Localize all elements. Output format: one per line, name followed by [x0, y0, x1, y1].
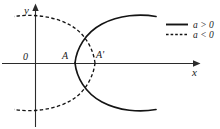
y-axis: [32, 4, 38, 128]
parabola-diagram: y x 0 A A' a > 0 a < 0: [0, 0, 220, 129]
curve-a-positive-upper-branch: [75, 15, 156, 63]
point-label-a: A: [61, 50, 69, 61]
figure-container: y x 0 A A' a > 0 a < 0: [0, 0, 220, 129]
point-label-a-prime: A': [95, 49, 105, 60]
x-axis: [2, 60, 201, 66]
legend-label-a-negative: a < 0: [193, 30, 214, 40]
y-axis-arrow-icon: [32, 4, 38, 12]
legend: a > 0 a < 0: [166, 20, 214, 40]
legend-label-a-positive: a > 0: [193, 20, 214, 30]
legend-item-a-negative[interactable]: a < 0: [166, 30, 214, 40]
curve-a-negative-lower-branch: [14, 63, 95, 111]
legend-item-a-positive[interactable]: a > 0: [166, 20, 214, 30]
curve-a-positive-lower-branch: [75, 63, 156, 111]
y-axis-label: y: [23, 4, 29, 16]
x-axis-label: x: [191, 66, 197, 78]
origin-label: 0: [23, 51, 28, 62]
